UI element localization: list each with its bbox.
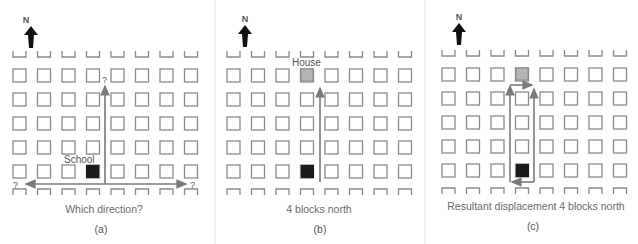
city-block [399,165,412,178]
partial-block [301,189,314,195]
svg-text:N: N [23,15,30,25]
svg-text:N: N [242,14,249,24]
city-block [62,69,75,82]
partial-block [540,188,553,194]
partial-block [87,189,100,195]
city-block [62,117,75,130]
city-block [374,69,387,82]
city-block [325,93,338,106]
city-block [301,117,314,130]
city-block [87,117,100,130]
partial-block [276,189,289,195]
compass-north-icon: N [23,15,38,48]
city-block [540,68,553,81]
partial-block [136,51,149,57]
city-block [467,140,480,153]
city-block [516,92,529,105]
city-block [565,68,578,81]
city-block [276,69,289,82]
partial-block [374,189,387,195]
partial-block [111,189,124,195]
svg-text:N: N [456,12,463,22]
city-block [276,165,289,178]
partial-block [540,50,553,56]
partial-block [227,51,240,57]
city-block [87,93,100,106]
city-block [136,93,149,106]
city-block [491,140,504,153]
partial-block [399,189,412,195]
city-block [442,92,455,105]
city-block [160,141,173,154]
city-block [540,116,553,129]
city-block [301,93,314,106]
city-block [614,140,627,153]
city-block [252,141,265,154]
city-block [614,68,627,81]
partial-block [160,51,173,57]
panel-b: N House 4 blocks north (b) [227,14,412,235]
city-block [227,93,240,106]
city-block [185,69,198,82]
partial-block [38,189,51,195]
school-block [301,165,314,178]
city-block [252,93,265,106]
city-block [374,141,387,154]
city-block [62,165,75,178]
partial-block [252,189,265,195]
displacement-figure: N School ? ? ? Which direction? (a) N Ho… [0,0,638,244]
city-block [227,141,240,154]
partial-block [614,50,627,56]
city-block [13,165,26,178]
partial-block [350,189,363,195]
partial-block [467,50,480,56]
partial-block [350,51,363,57]
panel-c: N Resultant displacement 4 blocks north … [442,12,627,232]
panel-a: N School ? ? ? Which direction? (a) [13,15,198,235]
partial-block [325,189,338,195]
city-block [374,93,387,106]
partial-block [565,50,578,56]
compass-north-icon: N [452,12,466,45]
city-block [87,69,100,82]
city-block [111,141,124,154]
city-block [111,69,124,82]
city-block [13,141,26,154]
partial-block [516,188,529,194]
caption-a: Which direction? [65,203,143,215]
partial-block [136,189,149,195]
partial-block [589,188,602,194]
city-block [136,141,149,154]
city-block [350,117,363,130]
city-block [589,116,602,129]
caption-b: 4 blocks north [286,203,352,215]
city-block [540,92,553,105]
partial-block [252,51,265,57]
city-block [160,93,173,106]
city-block [516,116,529,129]
partial-block [491,50,504,56]
city-block [467,116,480,129]
house-block [301,69,313,81]
school-block [86,165,99,178]
city-block [325,69,338,82]
house-block [516,68,528,80]
city-block [160,69,173,82]
city-block [491,68,504,81]
city-block [227,165,240,178]
city-block [276,141,289,154]
city-block [185,141,198,154]
house-label: House [292,57,321,68]
partial-block [160,189,173,195]
city-block [252,165,265,178]
city-block [111,93,124,106]
city-block [442,68,455,81]
city-block [227,117,240,130]
partial-block [38,51,51,57]
partial-block [374,51,387,57]
city-block [325,117,338,130]
city-block [350,69,363,82]
city-block [185,165,198,178]
city-block [565,92,578,105]
city-block [276,117,289,130]
